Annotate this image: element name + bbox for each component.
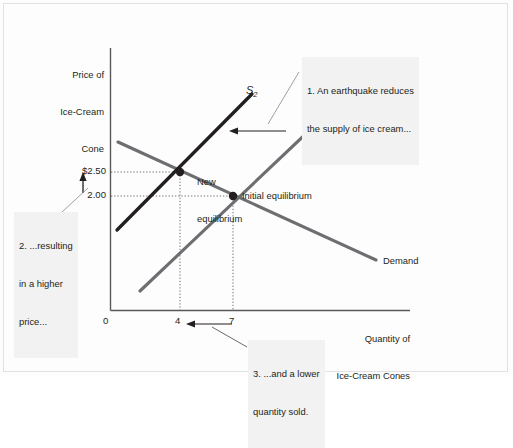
callout-higher-price-line-2: in a higher	[19, 278, 73, 291]
price-label-200: 2.00	[48, 189, 106, 200]
x-axis-title-line-1: Quantity of	[330, 333, 410, 345]
x-axis-title-line-2: Ice-Cream Cones	[330, 370, 410, 382]
callout-higher-price-line-3: price...	[19, 316, 73, 329]
x-axis-title: Quantity of Ice-Cream Cones	[330, 308, 410, 407]
callout-higher-price-line-1: 2. ...resulting	[19, 240, 73, 253]
origin-label: 0	[103, 315, 108, 326]
y-axis-title: Price of Ice-Cream Cone	[32, 44, 104, 180]
y-axis-title-line-1: Price of	[32, 69, 104, 81]
new-equilibrium-dot	[176, 168, 184, 176]
y-axis-title-line-2: Ice-Cream	[32, 106, 104, 118]
quantity-decrease-arrow	[186, 320, 232, 327]
callout-lower-quantity-line-1: 3. ...and a lower	[253, 368, 320, 381]
s2-subscript: 2	[253, 90, 257, 99]
new-equilibrium-line-2: equilibrium	[197, 213, 242, 225]
callout-lower-quantity: 3. ...and a lower quantity sold.	[248, 340, 325, 448]
y-axis-title-line-3: Cone	[32, 143, 104, 155]
demand-curve-label: Demand	[383, 255, 418, 266]
new-equilibrium-label: New equilibrium	[197, 152, 242, 250]
initial-equilibrium-label: Initial equilibrium	[242, 190, 312, 202]
price-label-250: $2.50	[48, 165, 106, 176]
supply-curve-s2-label: S2	[246, 84, 258, 99]
callout-higher-price: 2. ...resulting in a higher price...	[14, 212, 78, 358]
quantity-label-7: 7	[229, 315, 234, 326]
earthquake-annotation-leader	[268, 72, 299, 124]
earthquake-annotation-arrow	[229, 127, 286, 134]
callout-earthquake-line-1: 1. An earthquake reduces	[307, 85, 414, 98]
callout-earthquake-line-2: the supply of ice cream...	[307, 123, 414, 136]
new-equilibrium-line-1: New	[197, 176, 242, 188]
quantity-label-4: 4	[175, 315, 180, 326]
callout-lower-quantity-line-2: quantity sold.	[253, 406, 320, 419]
callout-earthquake: 1. An earthquake reduces the supply of i…	[302, 57, 419, 165]
quantity-callout-leader	[212, 327, 247, 347]
